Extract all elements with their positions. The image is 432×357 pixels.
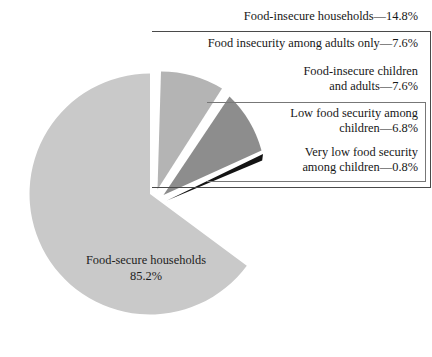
label-children-adults-line1: Food-insecure children bbox=[118, 64, 418, 79]
label-food-insecure-households: Food-insecure households—14.8% bbox=[118, 9, 418, 24]
label-food-insecure-children-and-adults: Food-insecure children and adults—7.6% bbox=[118, 64, 418, 94]
label-very-low-line1: Very low food security bbox=[188, 145, 418, 160]
label-food-secure-households: Food-secure households 85.2% bbox=[56, 252, 236, 284]
label-very-low-line2: among children—0.8% bbox=[188, 160, 418, 175]
label-children-adults-line2: and adults—7.6% bbox=[118, 79, 418, 94]
label-pie-main-line1: Food-secure households bbox=[56, 252, 236, 268]
label-low-security-line1: Low food security among bbox=[188, 106, 418, 121]
label-pie-main-percent: 85.2% bbox=[56, 268, 236, 284]
pie-chart-figure: Food-insecure households—14.8% Food inse… bbox=[0, 0, 432, 357]
label-low-food-security-children: Low food security among children—6.8% bbox=[188, 106, 418, 136]
label-food-insecurity-adults-only: Food insecurity among adults only—7.6% bbox=[118, 36, 418, 51]
label-very-low-food-security-children: Very low food security among children—0.… bbox=[188, 145, 418, 175]
label-low-security-line2: children—6.8% bbox=[188, 121, 418, 136]
pie-chart-graphic bbox=[0, 0, 432, 357]
